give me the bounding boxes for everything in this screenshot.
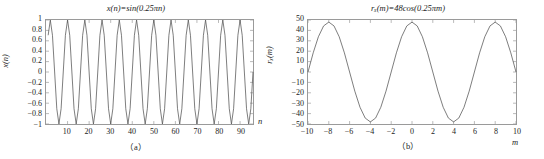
y-tick-label: −0.8: [27, 110, 42, 118]
x-axis-label-a: n: [258, 116, 262, 126]
caption-b: （b）: [272, 139, 544, 151]
y-tick-label: 0.6: [32, 36, 42, 44]
y-axis-label-a: x(n): [0, 54, 10, 68]
x-tick-label: 90: [237, 128, 245, 136]
series-line-b: [308, 22, 516, 122]
x-tick-label: 4: [452, 128, 456, 136]
tick-marks: [308, 20, 516, 124]
caption-a: （a）: [0, 140, 272, 152]
x-tick-label: −2: [387, 128, 396, 136]
figure-container: x(n)=sin(0.25πn) x(n) −1−0.8−0.6−0.4−0.2…: [0, 0, 544, 159]
y-tick-label: 10: [296, 57, 304, 65]
y-tick-label: −30: [291, 100, 304, 108]
y-tick-label: 1: [38, 15, 42, 23]
x-tick-label: 6: [473, 128, 477, 136]
waveform-a: [46, 20, 253, 124]
x-tick-label: 2: [431, 128, 435, 136]
y-tick-labels-b: −50−40−30−20−1001020304050: [278, 19, 304, 125]
y-tick-label: −0.6: [27, 100, 42, 108]
x-tick-label: 20: [85, 128, 93, 136]
y-tick-label: 0: [38, 68, 42, 76]
y-tick-label: −0.2: [27, 79, 42, 87]
y-tick-label: −10: [291, 79, 304, 87]
x-tick-label: −6: [345, 128, 354, 136]
waveform-b: [308, 20, 516, 124]
x-tick-label: 10: [63, 128, 71, 136]
plot-area-a: [45, 19, 254, 125]
y-tick-label: 0: [300, 68, 304, 76]
x-tick-label: −4: [366, 128, 375, 136]
x-tick-label: 70: [193, 128, 201, 136]
panel-a: x(n)=sin(0.25πn) x(n) −1−0.8−0.6−0.4−0.2…: [0, 0, 272, 159]
x-tick-label: −10: [301, 128, 314, 136]
x-tick-label: 50: [150, 128, 158, 136]
y-tick-label: 50: [296, 15, 304, 23]
y-tick-label: 30: [296, 36, 304, 44]
x-tick-label: −8: [324, 128, 333, 136]
series-line-a: [48, 20, 253, 124]
y-axis-label-b: rₓ(m): [264, 46, 274, 64]
panel-b: rₓ(m)=48cos(0.25πm) rₓ(m) −50−40−30−20−1…: [272, 0, 544, 159]
x-tick-label: 30: [106, 128, 114, 136]
x-tick-label: 80: [215, 128, 223, 136]
y-tick-labels-a: −1−0.8−0.6−0.4−0.200.20.40.60.81: [20, 19, 42, 125]
y-tick-label: 0.8: [32, 26, 42, 34]
y-tick-label: −40: [291, 110, 304, 118]
x-tick-label: 8: [494, 128, 498, 136]
ticks-b: [308, 20, 516, 124]
x-tick-label: 0: [410, 128, 414, 136]
y-tick-label: −0.4: [27, 89, 42, 97]
x-tick-label: 60: [172, 128, 180, 136]
chart-title-b: rₓ(m)=48cos(0.25πm): [272, 3, 544, 13]
y-tick-label: −1: [33, 121, 42, 129]
y-tick-label: 0.2: [32, 57, 42, 65]
y-tick-label: 40: [296, 26, 304, 34]
x-tick-label: 10: [513, 128, 521, 136]
y-tick-label: 0.4: [32, 47, 42, 55]
y-tick-label: 20: [296, 47, 304, 55]
x-tick-label: 40: [128, 128, 136, 136]
plot-area-b: [307, 19, 517, 125]
chart-title-a: x(n)=sin(0.25πn): [0, 3, 272, 13]
y-tick-label: −20: [291, 89, 304, 97]
